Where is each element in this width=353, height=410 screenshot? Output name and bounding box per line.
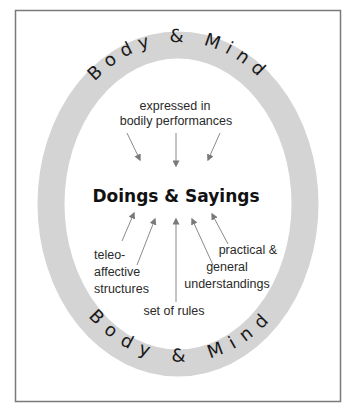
label-teleo: teleo- [94, 248, 125, 262]
label-structures: structures [94, 282, 149, 296]
practice-diagram: Body & Mind Body & Mind expressed in bod… [0, 0, 353, 410]
label-general: general [206, 260, 248, 274]
label-bodily-performances: bodily performances [120, 114, 233, 128]
label-expressed-in: expressed in [140, 99, 211, 113]
label-understandings: understandings [184, 277, 269, 291]
center-title: Doings & Sayings [92, 186, 259, 206]
label-affective: affective [94, 265, 140, 279]
label-set-of-rules: set of rules [143, 304, 204, 318]
label-practical: practical & [219, 243, 278, 257]
